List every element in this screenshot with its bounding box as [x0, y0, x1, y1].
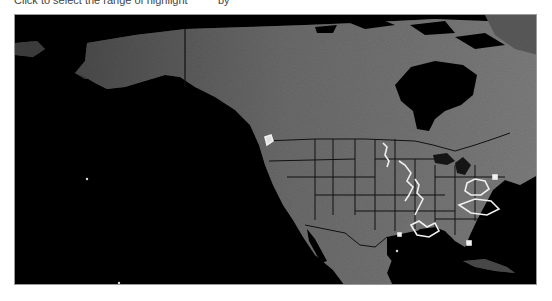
instruction-text: Click to select the range of highlight [14, 0, 188, 6]
highlight-new-jersey [493, 175, 497, 179]
map-view[interactable] [14, 14, 537, 285]
instruction-suffix: by [218, 0, 230, 6]
highlight-florida [467, 241, 471, 245]
header-bar: Click to select the range of highlight b… [0, 0, 552, 6]
island-dot [396, 250, 398, 252]
island-dot [118, 282, 120, 284]
highlight-texas-coast [398, 233, 401, 236]
satellite-map [15, 15, 537, 285]
island-dot [86, 178, 88, 180]
